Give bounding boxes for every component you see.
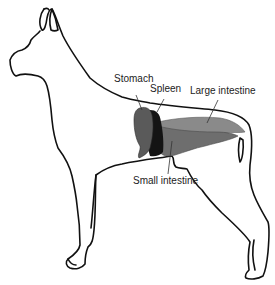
organs (134, 107, 245, 158)
label-spleen: Spleen (150, 84, 181, 94)
dog-anatomy-figure (0, 0, 275, 285)
label-stomach: Stomach (114, 74, 153, 84)
diagram-canvas: Stomach Spleen Large intestine Small int… (0, 0, 275, 285)
label-large-intestine: Large intestine (190, 86, 256, 96)
stomach-leader (136, 95, 142, 110)
label-small-intestine: Small intestine (133, 176, 198, 186)
